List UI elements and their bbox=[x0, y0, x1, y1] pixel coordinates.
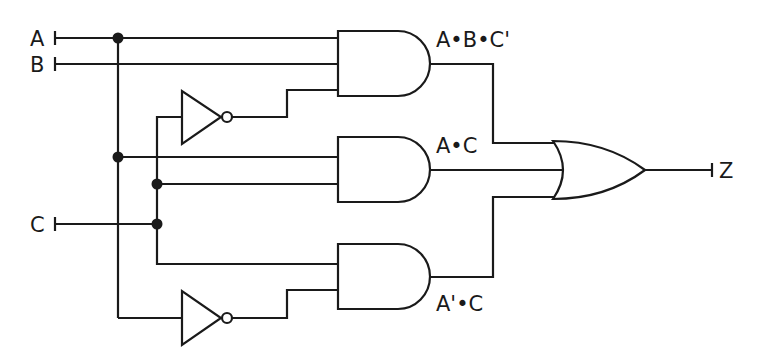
junction-dot bbox=[113, 152, 124, 163]
wire-and-outputs bbox=[430, 64, 566, 277]
and-gate-1 bbox=[338, 31, 430, 96]
or-gate bbox=[553, 141, 645, 199]
wire-not-c bbox=[232, 90, 338, 117]
and1-label: A•B•C' bbox=[436, 28, 510, 52]
junction-dot bbox=[152, 179, 163, 190]
junction-dot bbox=[152, 219, 163, 230]
wire-c bbox=[55, 117, 338, 264]
and-gate-2 bbox=[338, 137, 430, 202]
not-gate-c bbox=[182, 91, 232, 144]
not-gate-a bbox=[182, 291, 232, 345]
input-label-a: A bbox=[30, 27, 45, 51]
wire-a bbox=[55, 38, 338, 318]
wire-not-a bbox=[232, 290, 338, 318]
output-label-z: Z bbox=[719, 159, 733, 183]
and2-label: A•C bbox=[436, 134, 477, 158]
input-label-c: C bbox=[30, 213, 45, 237]
input-label-b: B bbox=[30, 53, 44, 77]
junction-dots bbox=[113, 33, 163, 230]
and3-label: A'•C bbox=[436, 292, 483, 316]
and-gate-3 bbox=[338, 244, 430, 309]
wire-output-z bbox=[645, 163, 712, 177]
logic-circuit-diagram: A B C bbox=[0, 0, 757, 360]
junction-dot bbox=[113, 33, 124, 44]
